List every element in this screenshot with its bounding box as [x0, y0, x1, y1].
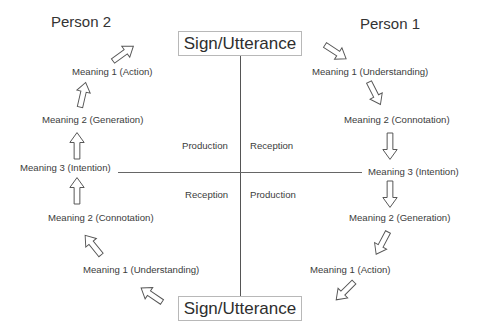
p1-meaning-2-generation: Meaning 2 (Generation): [349, 212, 450, 223]
p1-meaning-1-understanding: Meaning 1 (Understanding): [312, 66, 428, 77]
arrow-p1-connotation-to-intention: [383, 133, 397, 159]
arrow-p2-intention-to-generation: [70, 133, 84, 159]
arrow-p1-action-to-sign: [331, 277, 358, 304]
p2-meaning-2-connotation: Meaning 2 (Connotation): [48, 212, 154, 223]
arrow-p2-connotation-to-intention: [70, 178, 84, 204]
person-2-label: Person 2: [51, 13, 111, 30]
arrow-p1-generation-to-action: [370, 229, 394, 258]
arrow-p2-generation-to-action: [73, 81, 92, 109]
p2-meaning-3-intention: Meaning 3 (Intention): [20, 162, 111, 173]
arrow-sign-to-p1-understanding: [321, 39, 350, 64]
quadrant-top-left-label: Production: [182, 140, 228, 151]
quadrant-bottom-left-label: Reception: [185, 189, 228, 200]
arrow-p2-understanding-to-connotation: [80, 231, 106, 259]
p2-meaning-2-generation: Meaning 2 (Generation): [42, 114, 143, 125]
p1-meaning-2-connotation: Meaning 2 (Connotation): [344, 114, 450, 125]
arrow-p1-understanding-to-connotation: [363, 79, 387, 108]
p2-meaning-1-action: Meaning 1 (Action): [72, 66, 153, 77]
p1-meaning-3-intention: Meaning 3 (Intention): [368, 166, 459, 177]
person-1-label: Person 1: [360, 15, 420, 32]
p1-meaning-1-action: Meaning 1 (Action): [310, 264, 391, 275]
quadrant-top-right-label: Reception: [250, 140, 293, 151]
arrow-sign-to-p2-understanding: [137, 282, 166, 307]
p2-meaning-1-understanding: Meaning 1 (Understanding): [83, 264, 199, 275]
quadrant-bottom-right-label: Production: [250, 189, 296, 200]
arrow-p2-action-to-sign: [109, 41, 137, 67]
arrow-p1-intention-to-generation: [383, 181, 397, 207]
sign-utterance-bottom-box: Sign/Utterance: [178, 296, 302, 321]
sign-utterance-top-box: Sign/Utterance: [178, 31, 302, 56]
